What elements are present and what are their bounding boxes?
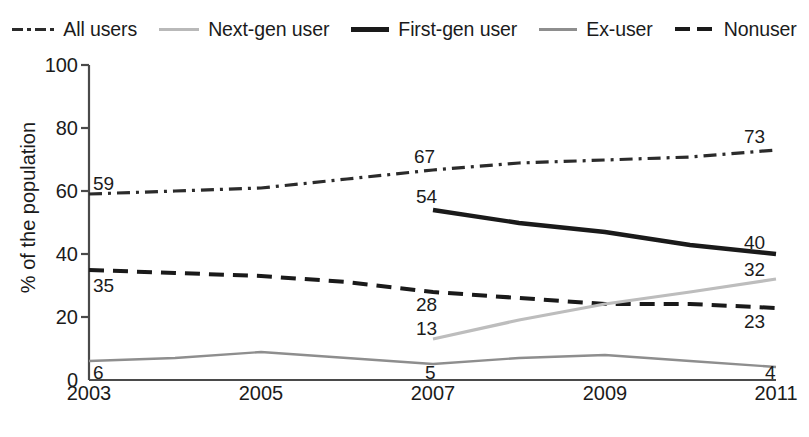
x-tick-2007: 2007 xyxy=(411,382,456,405)
data-label-all-users-2011: 73 xyxy=(744,126,765,148)
x-tick-2011: 2011 xyxy=(754,382,797,405)
line-style-solid-mid-icon xyxy=(539,22,577,36)
chart-svg xyxy=(0,46,809,437)
data-label-nonuser-2007: 28 xyxy=(416,294,437,316)
chart-legend: All users Next-gen user First-gen user E… xyxy=(0,12,809,46)
data-label-all-users-2003: 59 xyxy=(93,173,114,195)
line-style-dashed-icon xyxy=(675,22,715,36)
legend-label-next-gen-user: Next-gen user xyxy=(208,18,329,41)
chart-figure: All users Next-gen user First-gen user E… xyxy=(0,0,809,437)
data-label-next-gen-2007: 13 xyxy=(416,318,437,340)
data-label-ex-user-2007: 5 xyxy=(425,362,436,384)
line-style-dash-dot-icon xyxy=(12,22,54,36)
x-tick-2009: 2009 xyxy=(583,382,628,405)
series-line-next-gen-user xyxy=(433,279,776,339)
line-style-solid-light-icon xyxy=(159,22,199,36)
data-label-ex-user-2011: 4 xyxy=(765,362,776,384)
data-label-ex-user-2003: 6 xyxy=(93,362,104,384)
legend-item-first-gen-user[interactable]: First-gen user xyxy=(351,18,517,41)
data-label-nonuser-2003: 35 xyxy=(93,275,114,297)
legend-item-next-gen-user[interactable]: Next-gen user xyxy=(159,18,329,41)
legend-label-all-users: All users xyxy=(63,18,137,41)
legend-label-first-gen-user: First-gen user xyxy=(398,18,517,41)
data-label-nonuser-2011: 23 xyxy=(744,311,765,333)
line-style-solid-thick-icon xyxy=(351,22,389,36)
x-tick-2005: 2005 xyxy=(239,382,284,405)
legend-item-nonuser[interactable]: Nonuser xyxy=(675,18,797,41)
data-label-all-users-2007: 67 xyxy=(414,146,435,168)
legend-item-all-users[interactable]: All users xyxy=(12,18,137,41)
legend-label-nonuser: Nonuser xyxy=(724,18,797,41)
legend-item-ex-user[interactable]: Ex-user xyxy=(539,18,652,41)
data-label-first-gen-2011: 40 xyxy=(744,232,765,254)
chart-plot-area: % of the population 100 80 60 40 20 0 xyxy=(0,46,809,437)
x-tick-2003: 2003 xyxy=(67,382,112,405)
data-label-first-gen-2007: 54 xyxy=(416,186,437,208)
series-line-first-gen-user xyxy=(433,210,776,254)
legend-label-ex-user: Ex-user xyxy=(586,18,652,41)
data-label-next-gen-2011: 32 xyxy=(744,259,765,281)
